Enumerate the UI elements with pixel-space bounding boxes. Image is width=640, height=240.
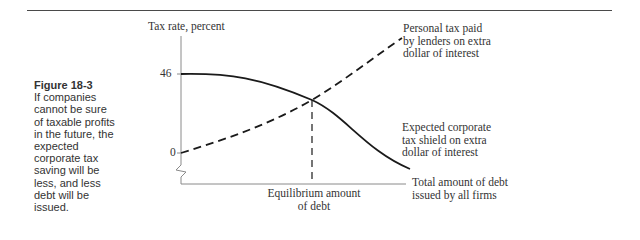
label-line: Personal tax paid (403, 22, 491, 35)
y-axis (176, 36, 186, 184)
label-line: dollar of interest (403, 47, 491, 60)
label-line: tax shield on extra (402, 134, 491, 147)
corporate-tax-curve-label: Expected corporate tax shield on extra d… (402, 121, 491, 159)
label-line: issued by all firms (412, 189, 508, 202)
label-line: dollar of interest (402, 146, 491, 159)
y-tick-46-label: 46 (160, 67, 172, 80)
label-line: Expected corporate (402, 121, 491, 134)
label-line: by lenders on extra (403, 35, 491, 48)
corporate-tax-shield-curve (181, 74, 410, 169)
label-line: Total amount of debt (412, 176, 508, 189)
y-axis-label: Tax rate, percent (148, 20, 225, 33)
y-tick-0-label: 0 (170, 146, 176, 159)
personal-tax-curve (181, 38, 402, 153)
equilibrium-label: Equilibrium amount of debt (264, 187, 364, 212)
x-axis-label: Total amount of debt issued by all firms (412, 176, 508, 201)
label-line: of debt (264, 200, 364, 213)
label-line: Equilibrium amount (264, 187, 364, 200)
personal-tax-curve-label: Personal tax paid by lenders on extra do… (403, 22, 491, 60)
